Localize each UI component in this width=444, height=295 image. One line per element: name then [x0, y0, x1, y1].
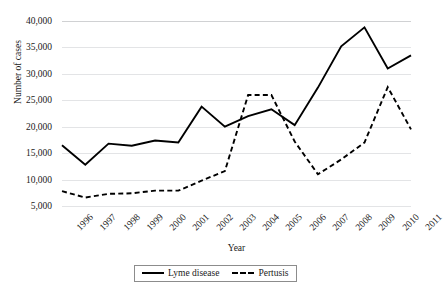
legend-label: Pertusis — [258, 268, 288, 278]
y-axis-tick-label: 35,000 — [26, 41, 52, 53]
x-axis-tick-label: 1997 — [98, 212, 119, 233]
series-line — [62, 27, 411, 164]
x-axis-tick-label: 2005 — [284, 212, 305, 233]
y-axis-tick-label: 5,000 — [31, 200, 52, 212]
legend-entry[interactable]: Pertusis — [232, 268, 288, 278]
x-axis-tick-labels: 1996199719981999200020012002200320042005… — [62, 206, 411, 246]
x-axis-tick-label: 2010 — [400, 212, 421, 233]
x-axis-tick-label: 2011 — [423, 212, 443, 232]
dashed-line-icon — [232, 272, 254, 274]
x-axis-tick-label: 2007 — [330, 212, 351, 233]
x-axis-tick-label: 2004 — [261, 212, 282, 233]
legend-entry[interactable]: Lyme disease — [142, 268, 219, 278]
y-axis-tick-label: 10,000 — [26, 174, 52, 186]
y-axis-tick-label: 40,000 — [26, 15, 52, 27]
x-axis-tick-label: 1999 — [144, 212, 165, 233]
x-axis-tick-label: 2001 — [191, 212, 212, 233]
x-axis-tick-label: 2000 — [168, 212, 189, 233]
y-axis-tick-label: 30,000 — [26, 68, 52, 80]
data-series-lines — [62, 21, 411, 206]
y-axis-tick-label: 20,000 — [26, 121, 52, 133]
x-axis-tick-label: 2009 — [377, 212, 398, 233]
x-axis-tick-label: 1996 — [75, 212, 96, 233]
y-axis-tick-label: 25,000 — [26, 94, 52, 106]
plot-area — [62, 21, 411, 206]
x-axis-tick-label: 2003 — [237, 212, 258, 233]
x-axis-tick-label: 2006 — [307, 212, 328, 233]
x-axis-title: Year — [62, 243, 411, 253]
chart-legend: Lyme diseasePertusis — [134, 265, 297, 282]
legend-label: Lyme disease — [168, 268, 219, 278]
solid-line-icon — [142, 272, 164, 274]
y-axis-tick-label: 15,000 — [26, 147, 52, 159]
x-axis-tick-label: 2008 — [354, 212, 375, 233]
x-axis-tick-label: 1998 — [121, 212, 142, 233]
x-axis-tick-label: 2002 — [214, 212, 235, 233]
series-line — [62, 87, 411, 197]
y-axis-tick-labels: 5,00010,00015,00020,00025,00030,00035,00… — [0, 21, 56, 206]
